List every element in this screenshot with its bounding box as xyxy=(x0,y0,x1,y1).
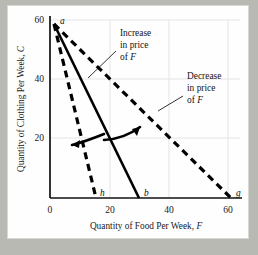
point-label-a: a xyxy=(60,16,65,26)
point-label-h: h xyxy=(100,188,105,198)
decrease-annotation-line1: Decrease xyxy=(187,71,221,81)
decrease-annotation-line3-symbol: F xyxy=(196,95,203,105)
increase-annotation-line3: of F xyxy=(120,52,136,62)
x-axis-title: Quantity of Food Per Week, F xyxy=(90,221,203,231)
x-tick-label-60: 60 xyxy=(223,204,233,215)
budget-line-chart: 60 40 20 0 20 40 60 Quantity of Food Per… xyxy=(8,6,248,238)
y-axis-title: Quantity of Clothing Per Week, C xyxy=(16,45,26,172)
figure-page: 60 40 20 0 20 40 60 Quantity of Food Per… xyxy=(0,0,258,255)
y-axis-title-symbol: C xyxy=(16,45,26,52)
y-tick-label-60: 60 xyxy=(34,14,44,25)
point-label-b: b xyxy=(144,188,149,198)
x-axis-title-symbol: F xyxy=(195,221,202,231)
figure-card: 60 40 20 0 20 40 60 Quantity of Food Per… xyxy=(8,6,248,238)
y-tick-label-20: 20 xyxy=(34,132,44,143)
increase-annotation-line3-prefix: of xyxy=(120,52,130,62)
x-tick-label-20: 20 xyxy=(105,204,115,215)
x-axis-title-text: Quantity of Food Per Week, xyxy=(90,221,197,231)
increase-annotation-line3-symbol: F xyxy=(129,52,136,62)
increase-annotation-line1: Increase xyxy=(120,28,151,38)
y-tick-label-40: 40 xyxy=(34,73,44,84)
point-label-g: g xyxy=(236,188,241,198)
x-tick-label-40: 40 xyxy=(164,204,174,215)
increase-annotation-line2: in price xyxy=(120,40,148,50)
decrease-annotation-line3: of F xyxy=(187,95,203,105)
y-axis-title-text: Quantity of Clothing Per Week, xyxy=(16,52,26,172)
decrease-annotation-line2: in price xyxy=(187,83,215,93)
decrease-annotation-line3-prefix: of xyxy=(187,95,197,105)
x-tick-label-0: 0 xyxy=(48,204,53,215)
